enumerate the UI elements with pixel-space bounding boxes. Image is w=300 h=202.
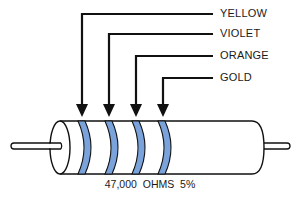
leader-orange: [136, 56, 213, 108]
band-label-yellow: YELLOW: [220, 7, 267, 19]
arrow-icon: [103, 104, 115, 117]
arrow-icon: [130, 104, 142, 117]
band-label-gold: GOLD: [220, 71, 252, 83]
leader-yellow: [82, 14, 213, 108]
arrow-icon: [76, 104, 88, 117]
band-label-violet: VIOLET: [220, 27, 260, 39]
arrow-icon: [157, 104, 169, 117]
leader-gold: [163, 78, 213, 108]
leader-violet: [109, 34, 213, 108]
band-label-orange: ORANGE: [220, 49, 269, 61]
resistance-caption: 47,000 OHMS 5%: [0, 178, 300, 190]
